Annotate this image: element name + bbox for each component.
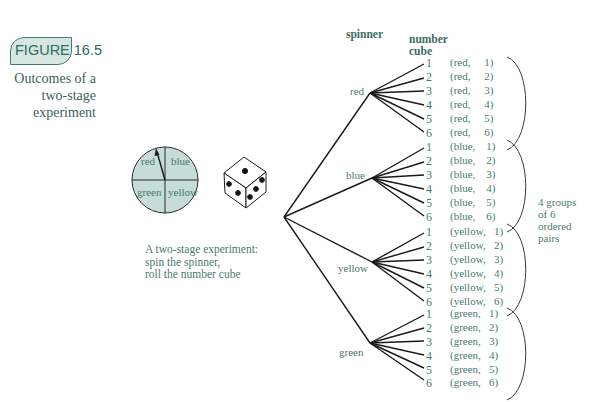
header-spinner: spinner — [346, 28, 383, 40]
ordered-pair: (blue, 6) — [450, 210, 496, 222]
node-red: red — [350, 85, 364, 97]
leaf-number: 5 — [426, 281, 432, 296]
leaf-number: 1 — [426, 140, 432, 155]
ordered-pair: (green, 4) — [450, 349, 498, 361]
leaf-number: 3 — [426, 253, 432, 268]
ordered-pair: (blue, 4) — [450, 182, 496, 194]
ordered-pair: (green, 1) — [450, 307, 498, 319]
node-green: green — [339, 346, 363, 358]
description-line: A two-stage experiment: — [145, 243, 258, 256]
ordered-pair: (red, 2) — [450, 70, 493, 82]
leaf-number: 3 — [426, 168, 432, 183]
leaf-number: 4 — [426, 267, 432, 282]
spinner-sector-red: red — [141, 155, 155, 167]
leaf-number: 2 — [426, 70, 432, 85]
ordered-pair: (red, 3) — [450, 84, 493, 96]
leaf-number: 5 — [426, 196, 432, 211]
leaf-number: 4 — [426, 349, 432, 364]
leaf-number: 1 — [426, 307, 432, 322]
ordered-pair: (blue, 1) — [450, 140, 496, 152]
leaf-number: 6 — [426, 210, 432, 225]
leaf-number: 6 — [426, 126, 432, 141]
spinner-sector-blue: blue — [171, 155, 190, 167]
ordered-pair: (red, 5) — [450, 112, 493, 124]
description-line: spin the spinner, — [145, 256, 258, 269]
ordered-pair: (green, 2) — [450, 321, 498, 333]
ordered-pair: (yellow, 1) — [450, 225, 503, 237]
note-line: ordered — [538, 220, 576, 232]
leaf-number: 4 — [426, 182, 432, 197]
experiment-description: A two-stage experiment: spin the spinner… — [145, 243, 258, 281]
leaf-number: 2 — [426, 239, 432, 254]
ordered-pair: (blue, 2) — [450, 154, 496, 166]
ordered-pair: (red, 1) — [450, 56, 493, 68]
ordered-pair: (yellow, 3) — [450, 253, 503, 265]
leaf-number: 3 — [426, 335, 432, 350]
ordered-pair: (green, 5) — [450, 363, 498, 375]
ordered-pair: (green, 3) — [450, 335, 498, 347]
leaf-number: 6 — [426, 376, 432, 391]
leaf-number: 3 — [426, 84, 432, 99]
node-yellow: yellow — [338, 262, 368, 274]
header-line: number — [409, 33, 448, 45]
note-line: pairs — [538, 232, 576, 244]
header-number-cube: number cube — [409, 33, 448, 57]
number-cube-icon — [224, 157, 266, 208]
leaf-number: 4 — [426, 98, 432, 113]
ordered-pair: (red, 4) — [450, 98, 493, 110]
leaf-number: 2 — [426, 154, 432, 169]
leaf-number: 1 — [426, 56, 432, 71]
ordered-pair: (blue, 5) — [450, 196, 496, 208]
tree-branches — [284, 64, 424, 380]
groups-note: 4 groups of 6 ordered pairs — [538, 196, 576, 244]
note-line: 4 groups — [538, 196, 576, 208]
ordered-pair: (yellow, 2) — [450, 239, 503, 251]
spinner-sector-yellow: yellow — [168, 186, 198, 198]
ordered-pair: (yellow, 4) — [450, 267, 503, 279]
leaf-number: 1 — [426, 225, 432, 240]
ordered-pair: (yellow, 6) — [450, 295, 503, 307]
group-braces — [507, 57, 526, 400]
node-blue: blue — [346, 169, 365, 181]
ordered-pair: (red, 6) — [450, 126, 493, 138]
leaf-number: 5 — [426, 112, 432, 127]
diagram-graphics — [0, 0, 603, 402]
description-line: roll the number cube — [145, 268, 258, 281]
ordered-pair: (blue, 3) — [450, 168, 496, 180]
leaf-number: 2 — [426, 321, 432, 336]
ordered-pair: (yellow, 5) — [450, 281, 503, 293]
spinner-sector-green: green — [137, 186, 161, 198]
ordered-pair: (green, 6) — [450, 376, 498, 388]
note-line: of 6 — [538, 208, 576, 220]
